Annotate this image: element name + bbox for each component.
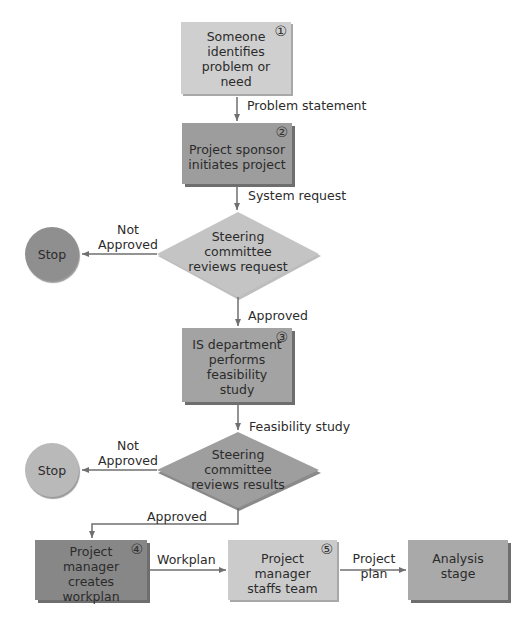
edge-label-workplan: Workplan [157, 552, 216, 567]
not-approved-2-line1: Not [96, 438, 160, 453]
step4-number: ④ [130, 542, 143, 556]
step1-box: ① Someone identifies problem or need [181, 22, 291, 94]
decision1-line2: committee [178, 244, 298, 259]
step5-number: ⑤ [320, 542, 333, 556]
flowchart-canvas: ① Someone identifies problem or need Pro… [0, 0, 526, 629]
project-plan-line2: plan [349, 566, 399, 581]
step3-label-line1: IS department [186, 337, 288, 352]
decision2-line3: reviews results [178, 477, 298, 492]
step3-label-line2: performs [203, 352, 271, 367]
stop1-label: Stop [38, 247, 66, 262]
step1-label-line1: Someone [201, 29, 272, 44]
step2-label-line1: Project sponsor [183, 142, 291, 157]
edge-label-approved-1: Approved [248, 308, 308, 323]
decision2-label: Steering committee reviews results [178, 447, 298, 492]
decision1-line3: reviews request [178, 259, 298, 274]
step3-label-line3: feasibility study [182, 367, 292, 397]
step1-label-line2: identifies [201, 44, 270, 59]
decision2-line1: Steering [178, 447, 298, 462]
step3-number: ③ [275, 330, 288, 344]
not-approved-1-line1: Not [96, 222, 160, 237]
analysis-label-line1: Analysis [426, 551, 490, 566]
step5-label-line2: staffs team [241, 581, 324, 596]
step1-number: ① [274, 24, 287, 38]
step3-box: ③ IS department performs feasibility stu… [182, 328, 292, 402]
stop2-circle: Stop [25, 443, 79, 497]
step4-box: ④ Project manager creates workplan [35, 540, 147, 600]
edge-label-project-plan: Project plan [349, 551, 399, 581]
step2-number: ② [275, 125, 288, 139]
edge-label-problem-statement: Problem statement [247, 98, 366, 113]
decision2-line2: committee [178, 462, 298, 477]
edge-label-feasibility-study: Feasibility study [249, 419, 350, 434]
analysis-label-line2: stage [435, 566, 482, 581]
step1-label-line3: problem or need [181, 59, 291, 89]
analysis-stage-box: Analysis stage [408, 540, 508, 600]
step2-box: ② Project sponsor initiates project [182, 123, 292, 184]
not-approved-2-line2: Approved [96, 453, 160, 468]
not-approved-1-line2: Approved [96, 237, 160, 252]
edge-label-not-approved-2: Not Approved [96, 438, 160, 468]
stop2-label: Stop [38, 463, 66, 478]
edge-label-approved-2: Approved [147, 509, 207, 524]
step4-label-line2: creates workplan [35, 574, 147, 604]
decision1-label: Steering committee reviews request [178, 229, 298, 274]
project-plan-line1: Project [349, 551, 399, 566]
step2-label-line2: initiates project [182, 157, 291, 172]
edge-label-not-approved-1: Not Approved [96, 222, 160, 252]
stop1-circle: Stop [25, 227, 79, 281]
decision1-line1: Steering [178, 229, 298, 244]
step5-box: ⑤ Project manager staffs team [228, 540, 337, 600]
edge-label-system-request: System request [248, 188, 346, 203]
